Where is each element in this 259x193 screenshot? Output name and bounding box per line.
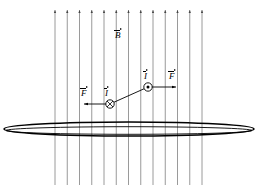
current-element-into-page: [84, 100, 114, 108]
current-wire-segment: [110, 87, 148, 104]
magnetic-field-lines: [55, 10, 202, 185]
current-label-right: I: [143, 69, 148, 81]
magnetic-field-symbol: B: [114, 31, 122, 40]
vector-arrow-overbar: [80, 86, 88, 90]
force-label-left: F: [80, 86, 88, 98]
force-symbol-left: F: [80, 89, 88, 98]
magnetic-field-label: B: [114, 28, 122, 40]
force-symbol-right: F: [168, 72, 176, 81]
vector-arrow-overbar: [143, 69, 148, 73]
current-symbol-right: I: [143, 72, 148, 81]
physics-diagram: B I F I F: [0, 0, 259, 193]
current-loop-ellipse: [4, 122, 254, 136]
vector-arrow-overbar: [104, 86, 109, 90]
current-symbol-left: I: [104, 89, 109, 98]
vector-arrow-overbar: [114, 28, 122, 32]
force-label-right: F: [168, 69, 176, 81]
vector-arrow-overbar: [168, 69, 176, 73]
diagram-canvas: [0, 0, 259, 193]
current-element-out-of-page: [144, 83, 176, 91]
current-label-left: I: [104, 86, 109, 98]
